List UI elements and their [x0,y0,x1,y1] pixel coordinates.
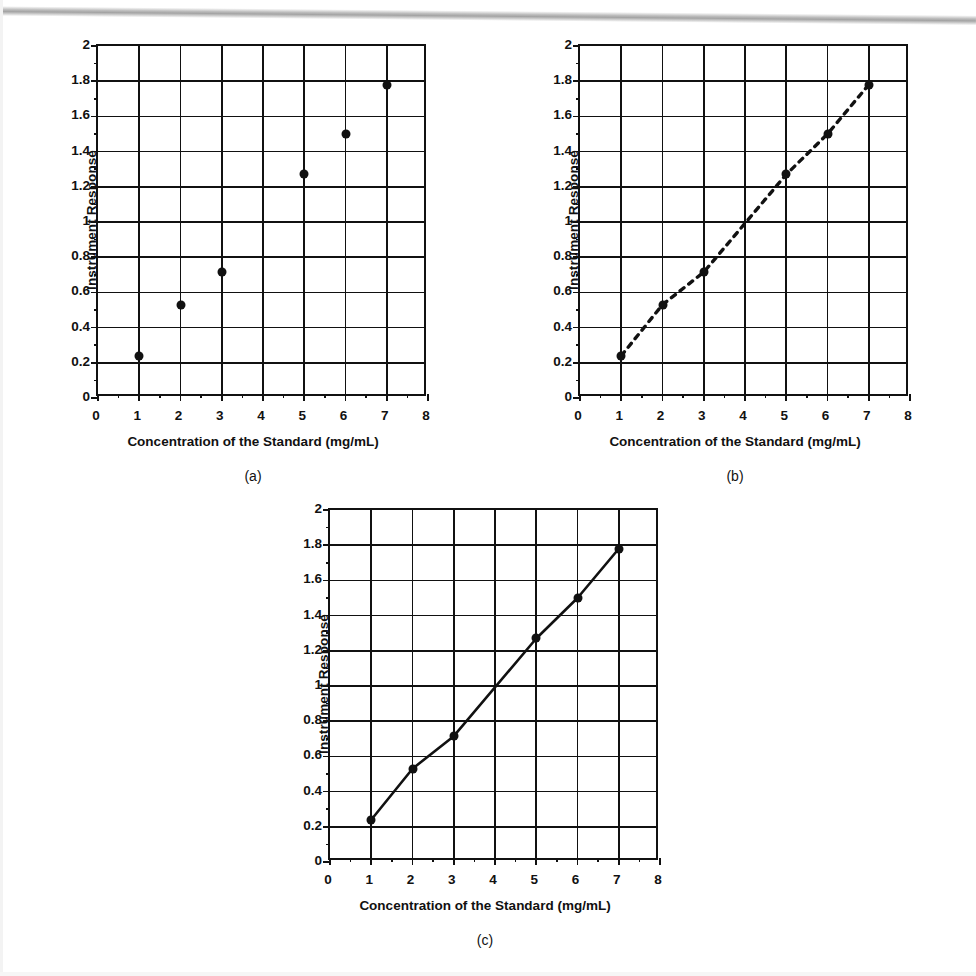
y-tick-major [323,509,330,511]
data-point [382,80,391,89]
gridline-horizontal [98,362,424,364]
x-tick-minor [407,394,409,398]
x-tick-minor [515,858,517,862]
plot-area [96,44,426,396]
x-tick-label: 5 [780,408,788,423]
gridline-vertical [412,510,414,858]
x-tick-label: 7 [381,408,389,423]
y-tick-label: 0.8 [303,712,322,727]
gridline-horizontal [330,580,656,582]
y-tick-label: 0.6 [553,283,572,298]
gridline-horizontal [330,720,656,722]
x-tick-label: 0 [324,872,332,887]
y-tick-label: 2 [564,37,572,52]
x-axis-title: Concentration of the Standard (mg/mL) [250,898,720,913]
gridline-horizontal [580,116,906,118]
y-tick-major [91,221,98,223]
y-tick-minor [94,309,98,311]
y-tick-label: 0 [564,389,572,404]
y-tick-label: 1.8 [553,72,572,87]
gridline-vertical [303,46,305,394]
y-tick-minor [326,703,330,705]
x-tick-minor [806,394,808,398]
x-tick-label: 1 [133,408,141,423]
y-tick-label: 1.2 [303,641,322,656]
y-tick-label: 0.6 [71,283,90,298]
x-tick-label: 3 [216,408,224,423]
x-tick-minor [432,858,434,862]
data-point [341,130,350,139]
x-tick-major [744,394,746,401]
gridline-vertical [221,46,223,394]
gridline-vertical [744,46,746,394]
subfigure-b: Instrument Response00.20.40.60.811.21.41… [500,26,970,496]
gridline-vertical [370,510,372,858]
y-tick-label: 1.4 [553,142,572,157]
y-tick-labels: 00.20.40.60.811.21.41.61.82 [276,508,322,860]
x-axis-title: Concentration of the Standard (mg/mL) [18,434,488,449]
x-tick-minor [283,394,285,398]
gridline-horizontal [98,80,424,82]
x-tick-major [577,858,579,865]
x-tick-label: 7 [613,872,621,887]
data-point [699,268,708,277]
x-tick-label: 5 [298,408,306,423]
x-tick-label: 2 [175,408,183,423]
y-tick-label: 0 [314,853,322,868]
y-tick-major [91,397,98,399]
x-tick-major [662,394,664,401]
y-tick-minor [94,344,98,346]
y-tick-label: 0.2 [303,817,322,832]
data-point [217,268,226,277]
gridline-horizontal [330,544,656,546]
x-tick-minor [365,394,367,398]
y-tick-major [573,80,580,82]
y-tick-major [91,292,98,294]
subfigure-c: Instrument Response00.20.40.60.811.21.41… [250,490,720,970]
y-tick-major [573,362,580,364]
gridline-horizontal [98,221,424,223]
gridline-vertical [494,510,496,858]
y-tick-label: 2 [82,37,90,52]
plot-b: Instrument Response00.20.40.60.811.21.41… [500,26,970,496]
x-tick-minor [350,858,352,862]
data-point [823,130,832,139]
gridline-horizontal [98,151,424,153]
y-tick-label: 0.2 [71,353,90,368]
x-tick-minor [556,858,558,862]
x-tick-minor [765,394,767,398]
x-tick-label: 8 [904,408,912,423]
y-tick-label: 0.4 [553,318,572,333]
gridline-horizontal [330,791,656,793]
y-tick-minor [576,309,580,311]
x-axis-title: Concentration of the Standard (mg/mL) [500,434,970,449]
x-tick-major [618,858,620,865]
x-tick-minor [159,394,161,398]
data-point [367,815,376,824]
y-tick-label: 1.8 [303,536,322,551]
y-tick-major [91,151,98,153]
x-tick-major [494,858,496,865]
gridline-horizontal [580,256,906,258]
y-tick-label: 1.2 [553,177,572,192]
y-tick-label: 0.8 [71,248,90,263]
gridline-vertical [453,510,455,858]
x-tick-major [303,394,305,401]
data-point [449,732,458,741]
gridline-vertical [868,46,870,394]
x-tick-label: 3 [448,872,456,887]
y-tick-minor [326,597,330,599]
gridline-vertical [345,46,347,394]
y-tick-major [323,650,330,652]
gridline-vertical [535,510,537,858]
y-tick-minor [326,738,330,740]
x-tick-major [535,858,537,865]
gridline-vertical [827,46,829,394]
y-tick-major [91,256,98,258]
y-tick-major [323,826,330,828]
y-tick-labels: 00.20.40.60.811.21.41.61.82 [526,44,572,396]
x-tick-minor [474,858,476,862]
y-tick-minor [326,632,330,634]
y-tick-major [573,256,580,258]
x-tick-major [868,394,870,401]
